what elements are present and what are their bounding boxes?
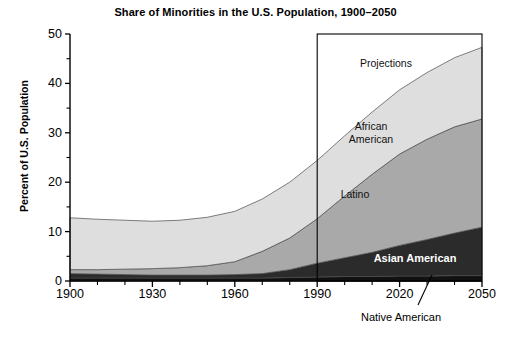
x-tick-2050: 2050 bbox=[452, 287, 511, 301]
x-tick-1990: 1990 bbox=[287, 287, 347, 301]
y-tick-10: 10 bbox=[34, 226, 62, 238]
y-tick-40: 40 bbox=[34, 77, 62, 89]
x-tick-1930: 1930 bbox=[122, 287, 182, 301]
x-tick-1960: 1960 bbox=[205, 287, 265, 301]
y-tick-0: 0 bbox=[34, 275, 62, 287]
annotation-native-american: Native American bbox=[361, 311, 441, 323]
chart-title: Share of Minorities in the U.S. Populati… bbox=[0, 6, 511, 18]
y-axis-label: Percent of U.S. Population bbox=[18, 36, 30, 256]
y-tick-20: 20 bbox=[34, 176, 62, 188]
x-tick-2020: 2020 bbox=[370, 287, 430, 301]
stacked-areas bbox=[70, 47, 482, 281]
y-tick-50: 50 bbox=[34, 28, 62, 40]
y-tick-30: 30 bbox=[34, 127, 62, 139]
x-tick-1900: 1900 bbox=[40, 287, 100, 301]
chart-figure: Share of Minorities in the U.S. Populati… bbox=[0, 0, 511, 349]
